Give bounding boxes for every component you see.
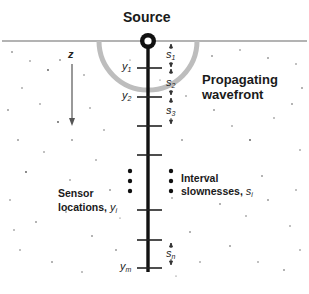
borehole-diagram — [0, 0, 309, 294]
wavefront-label-line2: wavefront — [202, 88, 263, 101]
sensor-label-y2: y2 — [122, 90, 131, 102]
interval-label-s1: s1 — [166, 49, 175, 61]
depth-axis-label: z — [68, 49, 74, 60]
wavefront-label-line1: Propagating — [202, 73, 278, 86]
source-icon — [140, 33, 156, 49]
ellipsis-dots — [128, 169, 173, 193]
depth-arrow — [69, 64, 75, 126]
interval-label-s3: s3 — [166, 105, 175, 117]
interval-slownesses-label-line2: slownesses, si — [181, 186, 253, 198]
interval-slownesses-label-line1: Interval — [181, 173, 218, 184]
interval-label-s2: s2 — [166, 77, 175, 89]
sensor-label-ym: ym — [120, 261, 131, 273]
sensor-locations-label-line2: locations, yi — [58, 202, 117, 214]
source-label: Source — [123, 10, 170, 24]
interval-label-sn: sn — [166, 248, 175, 260]
sensor-locations-label-line1: Sensor — [58, 188, 94, 199]
sensor-label-y1: y1 — [122, 61, 131, 73]
